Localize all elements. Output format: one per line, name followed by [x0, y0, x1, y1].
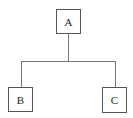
- node-c: C: [102, 87, 127, 113]
- connector-to-c: [115, 61, 116, 87]
- node-c-label: C: [111, 94, 118, 106]
- tree-diagram: A B C: [0, 0, 133, 118]
- node-b-label: B: [17, 94, 24, 106]
- connector-a-stem: [68, 34, 69, 62]
- connector-to-b: [21, 61, 22, 87]
- node-a: A: [56, 9, 81, 34]
- node-b: B: [8, 87, 33, 112]
- node-a-label: A: [65, 16, 73, 28]
- connector-horizontal-bar: [21, 61, 116, 62]
